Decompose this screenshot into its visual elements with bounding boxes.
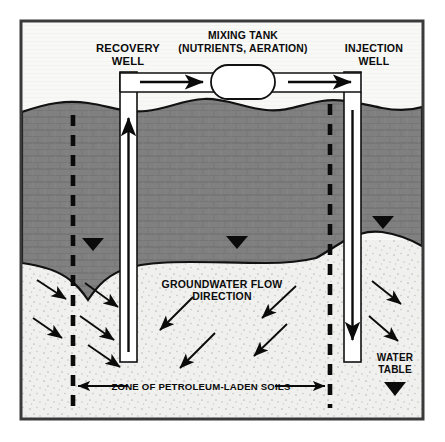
diagram-stage: GROUNDWATER FLOW DIRECTION ZONE OF PETRO… [0,0,445,442]
water-table-label-line2: TABLE [378,364,412,375]
water-table-label-line1: WATER [377,352,414,363]
injection-well-label-line1: INJECTION [345,42,403,54]
mixing-tank [211,65,275,99]
diagram-content: GROUNDWATER FLOW DIRECTION ZONE OF PETRO… [22,22,422,418]
mixing-tank-label-line1: MIXING TANK [208,30,278,41]
bioremediation-diagram: GROUNDWATER FLOW DIRECTION ZONE OF PETRO… [0,0,445,442]
mixing-tank-label-line2: (NUTRIENTS, AERATION) [178,43,307,54]
groundwater-flow-label-line2: DIRECTION [192,290,252,302]
recovery-well-label-line1: RECOVERY [96,42,160,54]
injection-well-label-line2: WELL [359,55,390,67]
recovery-well-label-line2: WELL [112,55,145,67]
zone-caption: ZONE OF PETROLEUM-LADEN SOILS [111,381,290,392]
groundwater-flow-label-line1: GROUNDWATER FLOW [162,278,283,290]
